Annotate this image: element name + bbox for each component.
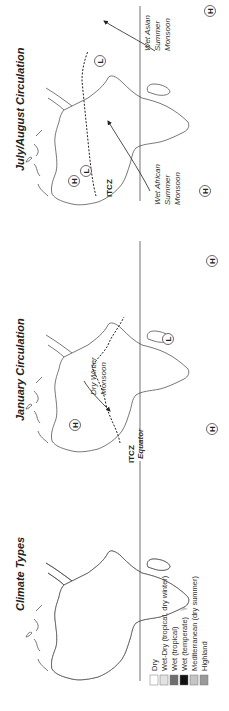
panel-january: January Circulation ITCZ Dry Winter Mons… (14, 241, 218, 463)
svg-text:H: H (206, 8, 215, 14)
svg-text:H: H (208, 258, 217, 264)
january-title: January Circulation (14, 318, 26, 421)
wet-african-label-1: Wet African (153, 164, 162, 205)
legend-wet-dry: Wet-Dry (tropical, dry winter) (160, 575, 169, 685)
svg-text:L: L (164, 336, 173, 341)
dry-monsoon-label-2: Monsoon (99, 362, 108, 395)
climate-types-title: Climate Types (14, 537, 26, 611)
svg-text:H: H (71, 422, 80, 428)
wet-asian-label-2: Summer (153, 20, 162, 51)
high-pressure-east-jul: H (205, 6, 216, 17)
svg-text:H: H (70, 178, 79, 184)
high-pressure-north-jan: H (70, 420, 81, 431)
svg-text:L: L (82, 168, 91, 173)
wet-african-label-2: Summer (163, 174, 172, 205)
svg-text:Wet (tropical): Wet (tropical) (170, 626, 179, 671)
high-pressure-north-jul: H (69, 176, 80, 187)
svg-text:H: H (201, 188, 210, 194)
itcz-label-jan: ITCZ (127, 445, 136, 463)
svg-text:Wet-Dry (tropical, dry winter): Wet-Dry (tropical, dry winter) (160, 575, 169, 671)
svg-text:Highland: Highland (200, 641, 209, 671)
july-title: July/August Circulation (14, 47, 26, 171)
diagram-stage: Climate Types Equator Dry (0, 0, 229, 711)
svg-text:Mediterranean (dry summer): Mediterranean (dry summer) (190, 575, 199, 671)
legend-wet-temperate: Wet (temperate) (180, 616, 189, 685)
wet-african-label-3: Monsoon (173, 172, 182, 205)
svg-text:L: L (96, 58, 105, 63)
svg-text:H: H (208, 426, 217, 432)
svg-text:Dry: Dry (150, 659, 159, 671)
panel-climate-types: Climate Types Equator Dry (14, 428, 209, 685)
dry-monsoon-label-1: Dry Winter (89, 357, 98, 395)
low-pressure-east-jul: L (95, 56, 106, 67)
svg-text:Wet (temperate): Wet (temperate) (180, 616, 189, 671)
wet-asian-label-3: Monsoon (163, 18, 172, 51)
legend-highland: Highland (200, 641, 209, 685)
legend-wet-tropical: Wet (tropical) (170, 626, 179, 685)
panel-july: July/August Circulation ITCZ Wet African… (14, 6, 216, 206)
low-pressure-west-jul: L (81, 166, 92, 177)
legend-mediterranean: Mediterranean (dry summer) (190, 575, 199, 685)
equator-label: Equator (136, 428, 145, 459)
high-pressure-south-jan: H (207, 424, 218, 435)
wet-asian-label-1: Wet Asian (143, 14, 152, 51)
itcz-label-jul: ITCZ (105, 179, 114, 197)
legend-dry: Dry (150, 659, 159, 685)
low-pressure-jan: L (163, 334, 174, 345)
high-pressure-east-jan: H (207, 256, 218, 267)
high-pressure-south-jul: H (200, 186, 211, 197)
